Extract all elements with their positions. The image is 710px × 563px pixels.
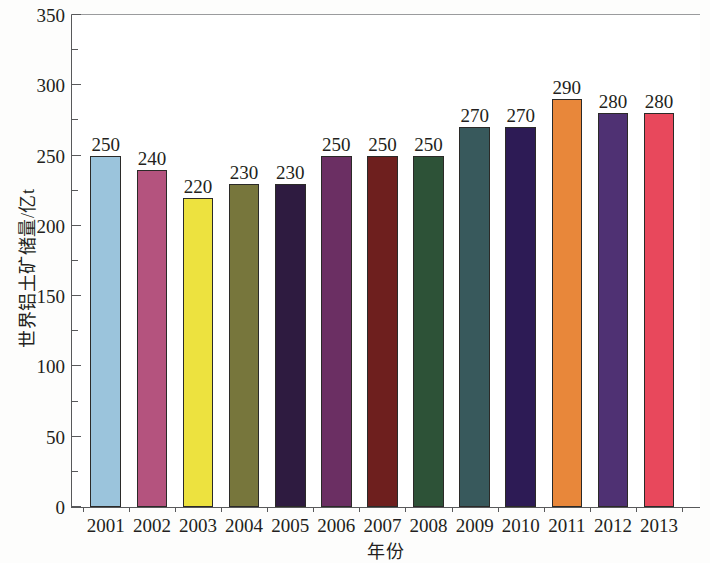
bar: 220: [183, 198, 214, 507]
bar: 250: [321, 156, 352, 507]
x-axis-tick-label: 2003: [179, 516, 217, 535]
x-axis-tick-label: 2008: [410, 516, 448, 535]
y-axis-tick-minor: [72, 190, 78, 191]
y-axis-tick-label: 350: [37, 6, 66, 25]
bar-value-label: 270: [460, 106, 489, 125]
y-axis-tick-minor: [72, 49, 78, 50]
y-axis-tick-label: 0: [56, 498, 66, 517]
x-axis-tick: [405, 507, 406, 512]
y-axis-tick-minor: [72, 330, 78, 331]
x-axis-tick: [544, 507, 545, 512]
bar-value-label: 240: [138, 149, 167, 168]
bar: 270: [459, 127, 490, 507]
bar-value-label: 290: [553, 78, 582, 97]
bar: 230: [229, 184, 260, 507]
x-axis-tick: [267, 507, 268, 512]
bar: 250: [413, 156, 444, 507]
bar: 280: [644, 113, 675, 507]
bar: 250: [90, 156, 121, 507]
x-axis-title: 年份: [71, 537, 700, 563]
x-axis-tick-label: 2002: [133, 516, 171, 535]
bar: 240: [137, 170, 168, 507]
y-axis-tick-label: 200: [37, 216, 66, 235]
y-axis-tick-major: 200: [72, 225, 81, 226]
bar: 280: [598, 113, 629, 507]
bar: 290: [552, 99, 583, 507]
x-axis-tick-label: 2004: [225, 516, 263, 535]
x-axis-tick-label: 2006: [317, 516, 355, 535]
bar: 230: [275, 184, 306, 507]
x-axis-tick: [636, 507, 637, 512]
y-axis-tick-major: 150: [72, 295, 81, 296]
y-axis-tick-label: 250: [37, 146, 66, 165]
x-axis-tick-label: 2009: [456, 516, 494, 535]
x-axis-tick: [221, 507, 222, 512]
y-axis-tick-label: 100: [37, 357, 66, 376]
y-axis-tick-major: 0: [72, 506, 81, 507]
x-axis-tick: [313, 507, 314, 512]
x-axis-tick-label: 2012: [594, 516, 632, 535]
x-axis-tick: [129, 507, 130, 512]
y-axis-title: 世界铝土矿储量/亿t: [13, 138, 39, 398]
bar-value-label: 250: [92, 135, 121, 154]
x-axis-tick-label: 2011: [548, 516, 585, 535]
bar-value-label: 250: [368, 135, 397, 154]
x-axis-tick: [498, 507, 499, 512]
bar-value-label: 250: [322, 135, 351, 154]
bar: 250: [367, 156, 398, 507]
y-axis-tick-label: 150: [37, 287, 66, 306]
x-axis-tick-label: 2013: [640, 516, 678, 535]
y-axis-tick-label: 50: [46, 427, 65, 446]
x-axis-tick: [590, 507, 591, 512]
bar-value-label: 220: [184, 177, 213, 196]
bar-value-label: 250: [414, 135, 443, 154]
y-axis-tick-minor: [72, 401, 78, 402]
y-axis-tick-major: 250: [72, 155, 81, 156]
x-axis-tick-label: 2001: [87, 516, 125, 535]
x-axis-tick-label: 2007: [363, 516, 401, 535]
y-axis-tick-major: 300: [72, 84, 81, 85]
x-axis-tick: [682, 507, 683, 512]
y-axis-tick-minor: [72, 119, 78, 120]
y-axis-tick-major: 50: [72, 436, 81, 437]
y-axis-tick-label: 300: [37, 76, 66, 95]
x-axis-tick: [175, 507, 176, 512]
bar-value-label: 230: [230, 163, 259, 182]
y-axis-tick-minor: [72, 260, 78, 261]
x-axis-tick-label: 2010: [502, 516, 540, 535]
bar: 270: [505, 127, 536, 507]
bar-value-label: 280: [599, 92, 628, 111]
y-axis-tick-minor: [72, 471, 78, 472]
y-axis-tick-major: 350: [72, 14, 81, 15]
bar-value-label: 270: [506, 106, 535, 125]
x-axis-tick: [452, 507, 453, 512]
bar-chart-figure: 世界铝土矿储量/亿t 050100150200250300350 2502402…: [0, 0, 710, 563]
x-axis-tick-label: 2005: [271, 516, 309, 535]
bar-value-label: 230: [276, 163, 305, 182]
x-axis-tick: [83, 507, 84, 512]
bar-value-label: 280: [645, 92, 674, 111]
x-axis-tick: [359, 507, 360, 512]
y-axis-tick-major: 100: [72, 365, 81, 366]
plot-area: 050100150200250300350 250240220230230250…: [71, 14, 700, 508]
